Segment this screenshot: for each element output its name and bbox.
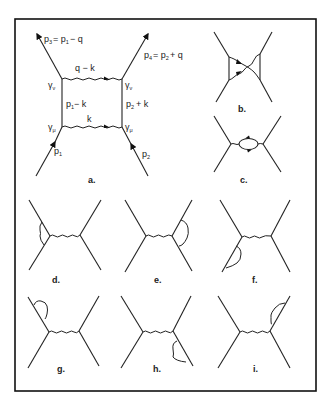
caption-f: f.	[252, 275, 258, 285]
panel-a-box-diagram: p3= p1− q p4= p2+ q q − k k p1− k p2+ k …	[36, 34, 183, 185]
panel-f-self-energy-lower-left: f.	[220, 200, 290, 285]
top-photon-line	[62, 78, 122, 80]
caption-g: g.	[57, 364, 65, 374]
label-gamma-mu-left: γμ	[48, 122, 56, 133]
caption-d: d.	[52, 275, 60, 285]
caption-c: c.	[240, 175, 248, 185]
caption-b: b.	[238, 104, 246, 114]
feynman-diagram-figure: p3= p1− q p4= p2+ q q − k k p1− k p2+ k …	[0, 0, 334, 407]
panel-g-self-energy-upper-left: g.	[28, 296, 99, 374]
label-bottom-photon: k	[87, 114, 92, 124]
panel-h-self-energy-lower-right: h.	[121, 296, 193, 374]
label-p2: p2	[142, 149, 150, 160]
caption-e: e.	[154, 275, 162, 285]
caption-h: h.	[153, 364, 161, 374]
label-gamma-mu-right: γμ	[125, 122, 133, 133]
label-gamma-nu-left: γν	[48, 80, 56, 91]
label-top-photon: q − k	[75, 63, 95, 73]
panel-e-vertex-right: e.	[125, 200, 192, 285]
label-p3: p3= p1− q	[44, 34, 83, 45]
caption-i: i.	[253, 364, 258, 374]
panel-d-vertex-left: d.	[29, 200, 101, 285]
label-p4: p4= p2+ q	[144, 50, 183, 61]
panel-i-self-energy-upper-right: i.	[218, 296, 290, 374]
panel-c-vacuum-polarization: c.	[214, 116, 281, 185]
label-p1: p1	[54, 146, 62, 157]
bottom-photon-line	[62, 126, 122, 128]
caption-a: a.	[88, 175, 96, 185]
label-right-propagator: p2+ k	[126, 99, 149, 110]
label-left-propagator: p1− k	[66, 99, 87, 110]
panel-b-crossed-box: b.	[214, 32, 272, 114]
incoming-p1-arrow	[36, 142, 55, 176]
label-gamma-nu-right: γν	[125, 80, 133, 91]
